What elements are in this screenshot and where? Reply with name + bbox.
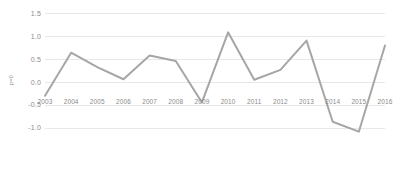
series-line [45,13,385,151]
x-tick-label: 2013 [295,99,319,106]
x-tick-label: 2006 [111,99,135,106]
x-tick-label: 2010 [216,99,240,106]
x-tick-label: 2011 [242,99,266,106]
x-tick-label: 2016 [373,99,397,106]
y-tick-label: 0.0 [17,79,41,86]
y-tick-label: 0.5 [17,56,41,63]
x-tick-label: 2003 [33,99,57,106]
plot-area: 2003200420052006200720082009201020112012… [45,13,385,151]
x-tick-label: 2005 [85,99,109,106]
line-chart: p=0 1.5 1.0 0.5 0.0 -0.5 -1.0 2003200420… [0,0,398,182]
x-tick-label: 2014 [321,99,345,106]
y-tick-label: 1.0 [17,33,41,40]
y-tick-label: -1.0 [17,124,41,131]
x-tick-label: 2008 [164,99,188,106]
x-tick-label: 2015 [347,99,371,106]
y-axis-title: p=0 [8,75,14,85]
y-tick-label: 1.5 [17,10,41,17]
x-tick-label: 2007 [138,99,162,106]
x-tick-label: 2009 [190,99,214,106]
x-tick-label: 2012 [268,99,292,106]
x-tick-label: 2004 [59,99,83,106]
